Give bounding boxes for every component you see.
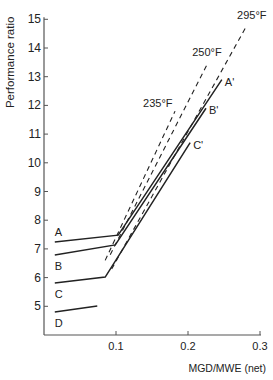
series-end-label: C' <box>193 139 203 151</box>
series-label: D <box>55 317 63 329</box>
y-tick-label: 14 <box>28 41 42 55</box>
series-label: A <box>55 226 63 238</box>
series-line-B <box>55 108 206 255</box>
y-tick-label: 9 <box>34 185 41 199</box>
x-tick-label: 0.1 <box>108 340 123 352</box>
series-label: C <box>55 288 63 300</box>
y-tick-label: 8 <box>34 213 41 227</box>
series-end-label: B' <box>209 104 218 116</box>
y-tick-label: 15 <box>28 12 42 26</box>
y-axis-label: Performance ratio <box>4 17 16 108</box>
performance-ratio-chart: 567891011121314150.10.20.3MGD/MWE (net)P… <box>0 0 273 380</box>
temperature-label: 235°F <box>143 97 173 109</box>
y-tick-label: 7 <box>34 242 41 256</box>
y-tick-label: 11 <box>29 127 42 141</box>
x-axis-label: MGD/MWE (net) <box>188 362 266 374</box>
y-tick-label: 13 <box>28 70 42 84</box>
y-tick-label: 10 <box>28 156 42 170</box>
series-line-A <box>55 80 222 242</box>
y-tick-label: 5 <box>34 299 41 313</box>
series-line-235F <box>105 111 175 260</box>
series-line-D <box>55 306 97 312</box>
x-tick-label: 0.3 <box>252 340 267 352</box>
series-line-295F <box>112 25 247 269</box>
temperature-label: 295°F <box>237 9 267 21</box>
series-end-label: A' <box>225 76 234 88</box>
y-tick-label: 12 <box>28 98 42 112</box>
temperature-label: 250°F <box>192 46 222 58</box>
x-tick-label: 0.2 <box>180 340 195 352</box>
y-tick-label: 6 <box>34 271 41 285</box>
series-label: B <box>55 260 62 272</box>
